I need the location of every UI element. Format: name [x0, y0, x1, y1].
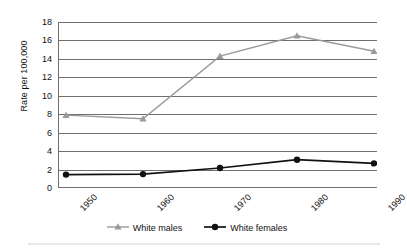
x-axis-tick-labels: 1950 1960 1970 1980 1990: [0, 192, 394, 222]
chart-legend: White males White females: [0, 222, 394, 234]
legend-label: White males: [133, 223, 183, 233]
legend-item-white-males[interactable]: White males: [107, 222, 183, 234]
y-tick-label: 4: [34, 147, 52, 156]
legend-marker-circle-icon: [204, 222, 226, 234]
y-tick-label: 14: [34, 54, 52, 63]
series-white-females: [63, 157, 377, 178]
y-tick-label: 10: [34, 91, 52, 100]
x-tick-label: 1980: [309, 192, 330, 213]
y-axis-title: Rate per 100,000: [19, 6, 29, 146]
legend-item-white-females[interactable]: White females: [204, 222, 287, 234]
y-tick-label: 6: [34, 128, 52, 137]
x-tick-label: 1960: [155, 192, 176, 213]
y-tick-label: 12: [34, 73, 52, 82]
gridlines: [58, 23, 377, 188]
bottom-divider: [28, 243, 380, 245]
x-tick-label: 1990: [386, 192, 407, 213]
y-tick-label: 2: [34, 165, 52, 174]
y-tick-label: 16: [34, 36, 52, 45]
legend-marker-triangle-icon: [107, 222, 129, 234]
y-tick-label: 18: [34, 18, 52, 27]
y-tick-label: 8: [34, 110, 52, 119]
plot-area: [58, 22, 377, 188]
legend-label: White females: [230, 223, 287, 233]
x-tick-label: 1950: [78, 192, 99, 213]
series-white-males: [62, 32, 377, 121]
x-tick-label: 1970: [232, 192, 253, 213]
